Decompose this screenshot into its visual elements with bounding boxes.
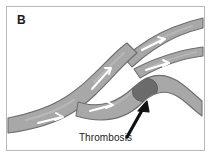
panel-letter-label: B [17,14,26,26]
vessel-group [8,18,203,137]
vessel-illustration [6,6,205,151]
thrombosis-caption-label: Thrombosis [0,133,211,143]
figure-panel: B Thrombosis [0,0,211,157]
